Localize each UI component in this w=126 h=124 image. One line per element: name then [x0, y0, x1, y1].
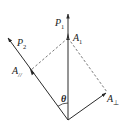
vector-diagram: P1 A1 P2 A// A⊥ θ: [0, 0, 126, 124]
p1-label: P1: [54, 17, 64, 30]
a-perp-label: A⊥: [106, 93, 119, 107]
theta-label: θ: [61, 93, 67, 104]
p2-label: P2: [16, 37, 26, 50]
projection-dashed-perp: [68, 38, 107, 92]
a-perp-vector-line: [68, 93, 106, 120]
p2-axis-line: [8, 38, 68, 120]
a1-label: A1: [72, 32, 82, 45]
a-parallel-label: A//: [11, 65, 23, 78]
projection-dashed-parallel: [31, 38, 68, 70]
